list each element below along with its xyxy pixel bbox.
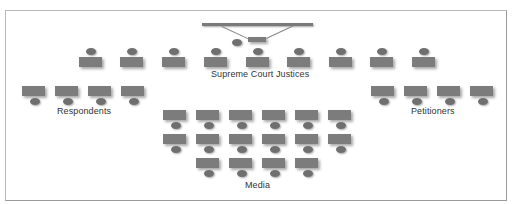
justice-desk <box>370 57 393 67</box>
media-desk <box>262 110 285 120</box>
justices-label: Supreme Court Justices <box>211 69 309 79</box>
justice-seat <box>377 48 387 55</box>
justice-seat <box>253 48 263 55</box>
media-desk <box>163 110 186 120</box>
petitioner-seat <box>379 98 389 105</box>
justice-desk <box>287 57 310 67</box>
media-desk <box>196 134 219 144</box>
respondents-label: Respondents <box>57 106 111 116</box>
media-desk <box>163 134 186 144</box>
media-seat <box>270 170 280 177</box>
media-desk <box>262 134 285 144</box>
media-seat <box>171 146 181 153</box>
respondent-desk <box>55 86 78 96</box>
petitioners-label: Petitioners <box>411 106 455 116</box>
petitioner-desk <box>371 86 394 96</box>
respondent-seat <box>96 98 106 105</box>
justice-seat <box>211 48 221 55</box>
petitioner-seat <box>412 98 422 105</box>
media-seat <box>237 170 247 177</box>
media-seat <box>204 146 214 153</box>
media-desk <box>328 134 351 144</box>
media-seat <box>237 122 247 129</box>
media-desk <box>295 134 318 144</box>
media-desk <box>328 110 351 120</box>
media-desk <box>229 134 252 144</box>
media-seat <box>171 122 181 129</box>
justice-desk <box>204 57 227 67</box>
respondent-desk <box>22 86 45 96</box>
media-seat <box>270 122 280 129</box>
justice-seat <box>336 48 346 55</box>
media-seat <box>303 122 313 129</box>
media-desk <box>295 158 318 168</box>
justice-seat <box>127 48 137 55</box>
media-label: Media <box>245 180 270 190</box>
media-seat <box>237 146 247 153</box>
justice-desk <box>329 57 352 67</box>
respondent-desk <box>88 86 111 96</box>
media-desk <box>262 158 285 168</box>
media-desk <box>196 158 219 168</box>
media-seat <box>270 146 280 153</box>
petitioner-desk <box>470 86 493 96</box>
petitioner-desk <box>437 86 460 96</box>
justice-desk <box>162 57 185 67</box>
media-desk <box>295 110 318 120</box>
justice-desk <box>246 57 269 67</box>
justice-seat <box>294 48 304 55</box>
respondent-seat <box>129 98 139 105</box>
media-seat <box>303 146 313 153</box>
media-seat <box>204 170 214 177</box>
media-seat <box>336 122 346 129</box>
petitioner-desk <box>404 86 427 96</box>
justice-seat <box>86 48 96 55</box>
petitioner-seat <box>445 98 455 105</box>
respondent-seat <box>30 98 40 105</box>
media-desk <box>229 158 252 168</box>
media-seat <box>336 146 346 153</box>
media-seat <box>303 170 313 177</box>
justice-seat <box>419 48 429 55</box>
clerk-seat <box>232 39 242 46</box>
justice-seat <box>169 48 179 55</box>
respondent-seat <box>63 98 73 105</box>
justice-desk <box>79 57 102 67</box>
respondent-desk <box>121 86 144 96</box>
media-seat <box>204 122 214 129</box>
bench-bar <box>202 23 313 26</box>
justice-desk <box>412 57 435 67</box>
petitioner-seat <box>478 98 488 105</box>
media-desk <box>196 110 219 120</box>
media-desk <box>229 110 252 120</box>
clerk-desk <box>248 37 266 42</box>
justice-desk <box>120 57 143 67</box>
